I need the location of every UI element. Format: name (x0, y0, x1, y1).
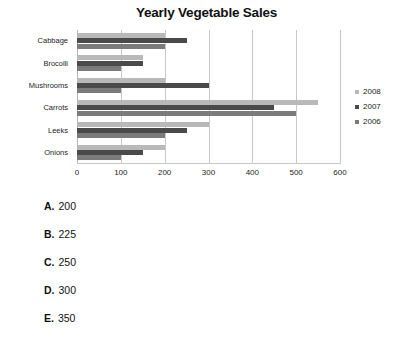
legend-item-2006: 2006 (355, 114, 381, 129)
legend-item-2007: 2007 (355, 99, 381, 114)
bar-leeks-2008 (77, 122, 209, 127)
option-letter: A. (44, 200, 55, 212)
bar-group (77, 97, 340, 119)
bar-group (77, 30, 340, 52)
option-letter: D. (44, 284, 55, 296)
x-tick-label: 500 (276, 168, 316, 177)
bar-cabbage-2008 (77, 33, 165, 38)
bar-group (77, 119, 340, 141)
legend-label: 2007 (363, 102, 381, 111)
x-tick-label: 0 (57, 168, 97, 177)
bar-mushrooms-2008 (77, 78, 165, 83)
category-label-leeks: Leeks (0, 126, 68, 135)
bar-carrots-2007 (77, 105, 274, 110)
legend-swatch-icon (355, 90, 359, 94)
bar-brocolli-2008 (77, 55, 143, 60)
category-label-carrots: Carrots (0, 103, 68, 112)
bar-leeks-2006 (77, 133, 165, 138)
chart-figure: Yearly Vegetable Sales CabbageBrocolliMu… (0, 0, 413, 185)
answer-option-e[interactable]: E.350 (44, 312, 244, 340)
legend-label: 2006 (363, 117, 381, 126)
option-value: 300 (59, 284, 77, 296)
chart-legend: 200820072006 (355, 84, 381, 129)
option-letter: B. (44, 228, 55, 240)
legend-swatch-icon (355, 105, 359, 109)
x-tick-label: 400 (232, 168, 272, 177)
answer-option-a[interactable]: A.200 (44, 200, 244, 228)
bar-carrots-2008 (77, 100, 318, 105)
legend-swatch-icon (355, 120, 359, 124)
bar-onions-2007 (77, 150, 143, 155)
bar-mushrooms-2006 (77, 88, 121, 93)
bar-mushrooms-2007 (77, 83, 209, 88)
bar-leeks-2007 (77, 128, 187, 133)
chart-title: Yearly Vegetable Sales (0, 5, 413, 20)
category-label-mushrooms: Mushrooms (0, 81, 68, 90)
x-tick-label: 300 (189, 168, 229, 177)
x-tick-label: 100 (101, 168, 141, 177)
answer-option-b[interactable]: B.225 (44, 228, 244, 256)
bar-onions-2006 (77, 155, 121, 160)
bar-group (77, 52, 340, 74)
option-value: 350 (58, 312, 76, 324)
bar-group (77, 142, 340, 164)
plot-area (77, 30, 340, 164)
category-label-brocolli: Brocolli (0, 59, 68, 68)
bar-group (77, 75, 340, 97)
option-letter: C. (44, 256, 55, 268)
bar-carrots-2006 (77, 111, 296, 116)
gridline (340, 30, 341, 164)
bar-brocolli-2007 (77, 61, 143, 66)
bar-cabbage-2007 (77, 38, 187, 43)
category-label-cabbage: Cabbage (0, 36, 68, 45)
x-tick-label: 200 (145, 168, 185, 177)
answer-option-d[interactable]: D.300 (44, 284, 244, 312)
legend-label: 2008 (363, 87, 381, 96)
category-label-onions: Onions (0, 148, 68, 157)
bar-onions-2008 (77, 145, 165, 150)
option-letter: E. (44, 312, 54, 324)
bar-cabbage-2006 (77, 44, 165, 49)
bar-brocolli-2006 (77, 66, 121, 71)
legend-item-2008: 2008 (355, 84, 381, 99)
option-value: 225 (59, 228, 77, 240)
x-tick-label: 600 (320, 168, 360, 177)
answer-option-c[interactable]: C.250 (44, 256, 244, 284)
answer-options: A.200B.225C.250D.300E.350 (44, 200, 244, 340)
option-value: 200 (59, 200, 77, 212)
option-value: 250 (59, 256, 77, 268)
